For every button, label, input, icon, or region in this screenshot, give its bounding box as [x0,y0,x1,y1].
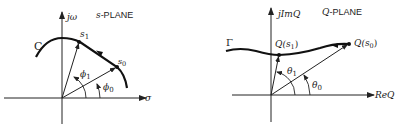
contour-c [36,38,127,88]
angle-phi0-label: ϕ0 [103,82,114,94]
angle-theta0-label: θ0 [312,80,322,92]
point-s0-label: s0 [118,57,126,68]
angle-phi1-label: ϕ1 [80,69,91,81]
point-q-s1 [277,53,281,57]
mapping-diagram: jω σ s-PLANE C s1 s0 ϕ1 ϕ0 jImQ ReQ Q-PL… [0,0,402,130]
s-plane-title: s-PLANE [96,10,133,20]
point-q-s0-label: Q(s0) [354,38,377,50]
angle-theta0-arc [304,75,310,95]
q-plane-panel: jImQ ReQ Q-PLANE Γ Q(s1) Q(s0) θ1 θ0 [226,7,395,122]
jimq-axis-label: jImQ [276,9,301,19]
contour-gamma-label: Γ [226,37,233,48]
req-axis-label: ReQ [374,90,395,100]
sigma-axis-label: σ [145,93,152,103]
q-plane-title: Q-PLANE [322,7,362,17]
point-q-s1-label: Q(s1) [275,39,298,51]
vector-q-s1 [271,57,279,95]
angle-phi0-arc [97,84,100,98]
angle-theta1-label: θ1 [287,66,297,78]
contour-c-label: C [34,40,42,53]
point-s1 [77,40,81,44]
jw-axis-label: jω [65,12,78,22]
point-q-s0 [347,42,351,46]
point-s1-label: s1 [80,29,89,41]
s-plane-panel: jω σ s-PLANE C s1 s0 ϕ1 ϕ0 [4,10,152,124]
